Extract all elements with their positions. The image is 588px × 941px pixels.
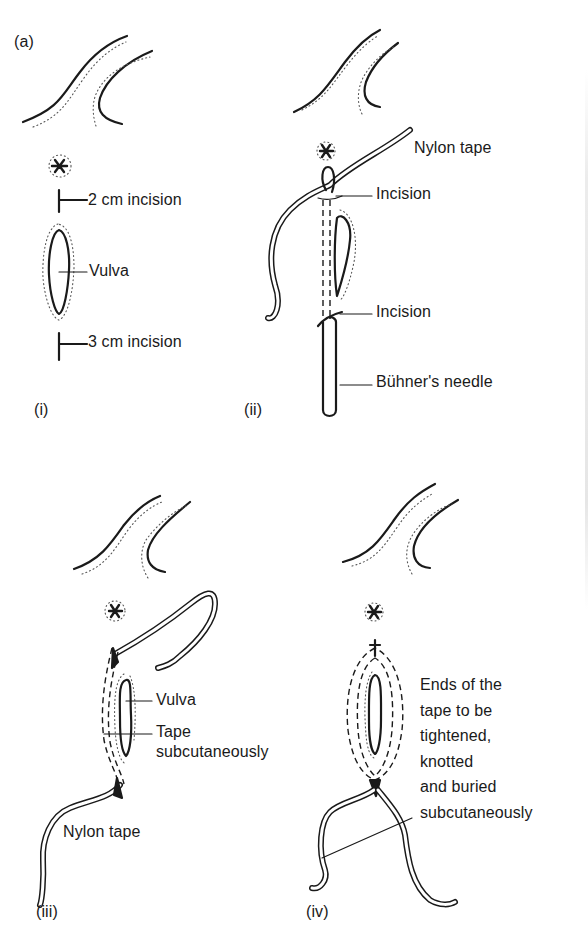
anus-icon xyxy=(105,601,125,621)
label-ends-of-tape: Ends of the tape to be tightened, knotte… xyxy=(420,672,580,825)
anus-icon xyxy=(365,603,383,621)
figure-label: (a) xyxy=(14,32,34,51)
label-buhners-needle: Bühner's needle xyxy=(376,372,493,391)
label-line: tape to be xyxy=(420,698,580,724)
panel-label-ii: (ii) xyxy=(244,400,262,419)
label-nylon-tape: Nylon tape xyxy=(414,138,492,157)
label-line: Ends of the xyxy=(420,672,580,698)
label-line: subcutaneously xyxy=(420,800,580,826)
label-2cm-incision: 2 cm incision xyxy=(88,190,182,209)
panel-label-iii: (iii) xyxy=(36,902,58,921)
label-line: knotted xyxy=(420,749,580,775)
label-nylon-tape: Nylon tape xyxy=(63,822,141,841)
label-incision-lower: Incision xyxy=(376,302,431,321)
panel-label-iv: (iv) xyxy=(306,902,329,921)
label-incision-upper: Incision xyxy=(376,184,431,203)
label-vulva: Vulva xyxy=(156,690,196,709)
anus-icon xyxy=(49,155,71,177)
anus-icon xyxy=(317,142,335,160)
label-vulva: Vulva xyxy=(89,261,129,280)
label-3cm-incision: 3 cm incision xyxy=(88,332,182,351)
label-subcutaneously: subcutaneously xyxy=(156,742,269,761)
label-tape: Tape xyxy=(156,722,191,741)
panel-label-i: (i) xyxy=(34,400,49,419)
label-line: and buried xyxy=(420,774,580,800)
panel-ii-drawing xyxy=(268,30,410,416)
label-line: tightened, xyxy=(420,723,580,749)
